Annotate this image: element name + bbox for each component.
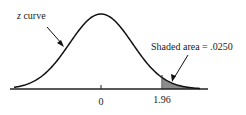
curve-word: curve [21,10,46,21]
z-curve-label: z curve [16,10,46,21]
normal-curve-diagram: 0 1.96 z curve Shaded area = .0250 [0,0,246,115]
z-curve-arrowhead [57,40,64,47]
shaded-area-label: Shaded area = .0250 [151,41,233,52]
shaded-area-arrow [174,55,188,78]
tick-label-0: 0 [99,96,104,107]
tick-label-1-96: 1.96 [153,94,171,105]
